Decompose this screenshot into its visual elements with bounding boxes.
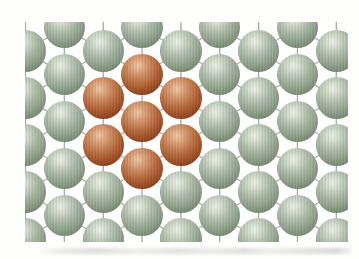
impurity-atom: [160, 124, 201, 165]
matrix-atom: [238, 171, 279, 212]
crystal-lattice-figure: [25, 22, 348, 242]
impurity-atom: [121, 148, 162, 189]
matrix-atom: [277, 101, 318, 142]
matrix-atom: [277, 148, 318, 189]
matrix-atom: [238, 124, 279, 165]
print-smudge: [35, 248, 351, 254]
matrix-atom: [277, 195, 318, 236]
matrix-atom: [83, 30, 124, 71]
impurity-atom: [83, 124, 124, 165]
impurity-atom: [121, 101, 162, 142]
matrix-atom: [160, 171, 201, 212]
matrix-atom: [83, 171, 124, 212]
matrix-atom: [160, 30, 201, 71]
matrix-atom: [238, 30, 279, 71]
matrix-atom: [44, 101, 85, 142]
matrix-atom: [44, 195, 85, 236]
matrix-atom: [44, 54, 85, 95]
matrix-atom: [238, 77, 279, 118]
figure-canvas: [0, 0, 359, 259]
matrix-atom: [277, 54, 318, 95]
impurity-atom: [121, 54, 162, 95]
matrix-atom: [44, 148, 85, 189]
impurity-atom: [83, 77, 124, 118]
matrix-atom: [121, 195, 162, 236]
impurity-atom: [160, 77, 201, 118]
